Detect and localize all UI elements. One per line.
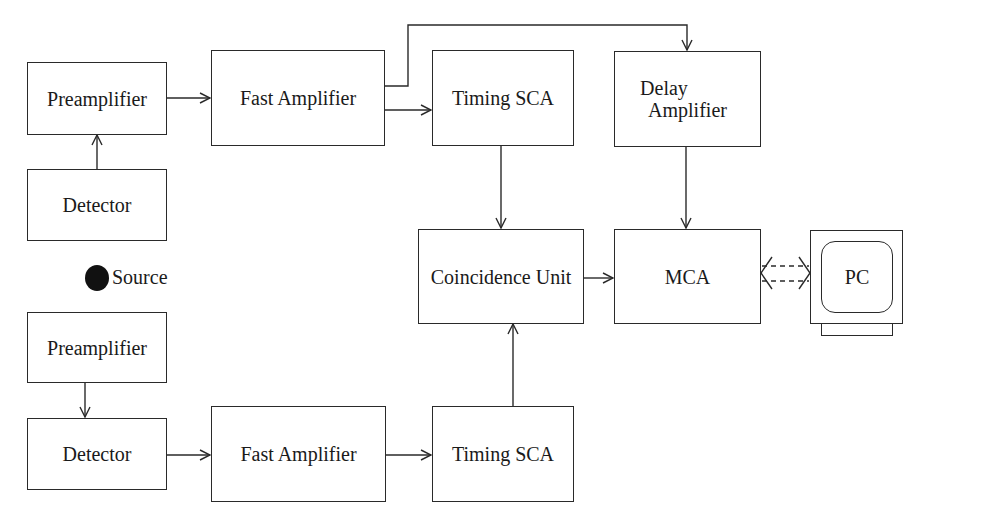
dashed-link-mca-pc bbox=[762, 266, 809, 281]
fast-amplifier-top-block: Fast Amplifier bbox=[211, 50, 385, 146]
mca-block: MCA bbox=[614, 229, 761, 324]
delay-amplifier-label-line1: Delay bbox=[640, 77, 727, 99]
preamplifier-bottom-block: Preamplifier bbox=[27, 312, 167, 383]
preamplifier-bottom-label: Preamplifier bbox=[47, 337, 147, 359]
detector-top-label: Detector bbox=[63, 194, 132, 216]
fast-amplifier-bottom-label: Fast Amplifier bbox=[240, 443, 356, 465]
detector-bottom-label: Detector bbox=[63, 443, 132, 465]
preamplifier-top-label: Preamplifier bbox=[47, 88, 147, 110]
delay-amplifier-label-line2: Amplifier bbox=[648, 99, 727, 121]
coincidence-unit-block: Coincidence Unit bbox=[418, 229, 584, 324]
timing-sca-bottom-block: Timing SCA bbox=[432, 406, 574, 502]
mca-label: MCA bbox=[665, 266, 711, 288]
detector-top-block: Detector bbox=[27, 169, 167, 241]
fast-amplifier-top-label: Fast Amplifier bbox=[240, 87, 356, 109]
arrowhead-right-pc bbox=[799, 257, 810, 289]
fast-amplifier-bottom-block: Fast Amplifier bbox=[211, 406, 386, 502]
timing-sca-top-label: Timing SCA bbox=[452, 87, 554, 109]
delay-amplifier-block: Delay Amplifier bbox=[614, 51, 761, 147]
timing-sca-bottom-label: Timing SCA bbox=[452, 443, 554, 465]
detector-bottom-block: Detector bbox=[27, 418, 167, 490]
pc-stand bbox=[821, 323, 893, 336]
pc-label: PC bbox=[845, 266, 869, 289]
preamplifier-top-block: Preamplifier bbox=[27, 62, 167, 135]
pc-screen: PC bbox=[821, 241, 893, 313]
arrowhead-left-mca bbox=[761, 257, 772, 289]
timing-sca-top-block: Timing SCA bbox=[432, 50, 574, 146]
coincidence-unit-label: Coincidence Unit bbox=[431, 266, 572, 288]
source-label: Source bbox=[112, 266, 168, 289]
source-dot-icon bbox=[85, 265, 109, 291]
